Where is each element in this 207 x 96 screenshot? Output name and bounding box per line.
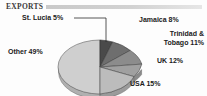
st-lucia-leader-line: [74, 18, 106, 42]
leader-line-path: [74, 18, 106, 42]
pie-label-trinidad-tobago-line2: Tobago 11%: [164, 39, 204, 46]
exports-pie-chart-figure: EXPORTS: [0, 0, 207, 96]
pie-label-jamaica: Jamaica 8%: [139, 16, 179, 25]
pie-label-usa: USA 15%: [130, 80, 160, 89]
pie-label-uk: UK 12%: [157, 57, 183, 66]
header-rule-divider: [46, 5, 202, 9]
pie-label-other: Other 49%: [8, 48, 43, 57]
pie-label-trinidad-tobago: Trinidad & Tobago 11%: [148, 30, 204, 47]
pie-label-trinidad-tobago-line1: Trinidad &: [170, 30, 204, 37]
page-title: EXPORTS: [6, 2, 43, 11]
pie-chart-plot-area: St. Lucia 5% Jamaica 8% Trinidad & Tobag…: [0, 12, 207, 96]
pie-label-st-lucia: St. Lucia 5%: [22, 14, 63, 23]
